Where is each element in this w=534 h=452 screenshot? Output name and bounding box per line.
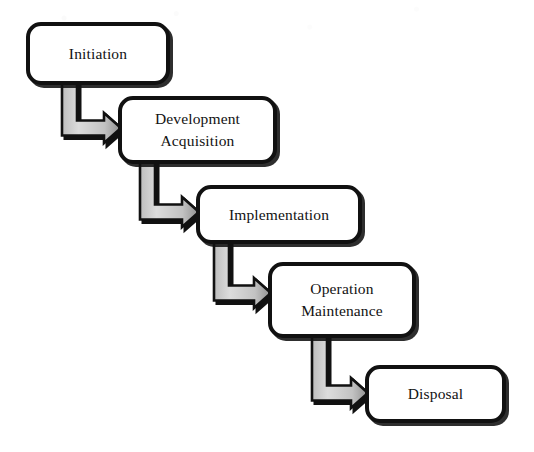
connector-body [62,82,121,143]
connector-arrow-development-to-implementation [140,160,202,230]
stage-box-operation-maintenance[interactable]: Operation Maintenance [268,262,416,338]
stage-box-implementation[interactable]: Implementation [196,185,362,244]
stage-box-development-acquisition[interactable]: Development Acquisition [118,96,277,164]
stage-label-implementation: Implementation [223,204,335,226]
connector-body [312,334,368,408]
stage-label-operation-maintenance: Operation Maintenance [295,278,389,322]
connector-body [214,240,271,308]
stage-label-disposal: Disposal [402,383,469,405]
stage-box-disposal[interactable]: Disposal [365,365,506,423]
stage-label-initiation: Initiation [63,43,133,65]
sdlc-waterfall-diagram: Initiation Development Acquisition Imple… [0,0,534,452]
connector-arrow-implementation-to-operation [214,240,274,311]
stage-box-initiation[interactable]: Initiation [26,22,170,85]
connector-arrow-operation-to-disposal [312,334,371,411]
stage-label-development-acquisition: Development Acquisition [149,108,246,152]
connector-arrow-initiation-to-development [62,82,124,146]
connector-body [140,160,199,227]
